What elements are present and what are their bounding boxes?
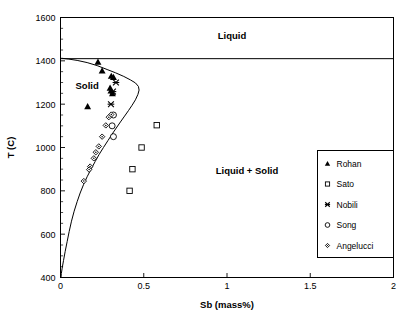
axis-titles: Sb (mass%)T (C) [5, 137, 254, 310]
chart-legend[interactable]: RohanSatoNobiliSongAngelucci [318, 151, 394, 258]
marker-open-circle [109, 123, 115, 129]
curve-solvus-curve [61, 58, 139, 277]
marker-filled-triangle [84, 103, 91, 109]
region-label-2: Liquid + Solid [216, 165, 279, 176]
legend-label-angelucci: Angelucci [337, 241, 374, 251]
marker-open-square [130, 166, 135, 171]
marker-open-square [139, 145, 144, 150]
legend-label-rohan: Rohan [337, 159, 362, 169]
region-label-0: Liquid [218, 30, 247, 41]
series-sato [127, 122, 160, 193]
marker-diamond-center [95, 152, 97, 154]
marker-diamond-center [105, 125, 107, 127]
marker-diamond-center [93, 158, 95, 160]
x-tick-label-1: 0.5 [137, 281, 150, 291]
region-label-1: Solid [76, 80, 99, 91]
marker-diamond-center [98, 146, 100, 148]
region-labels: LiquidSolidLiquid + Solid [76, 30, 279, 175]
marker-diamond-center [88, 169, 90, 171]
x-tick-label-3: 1.5 [304, 281, 317, 291]
y-tick-label-3: 1000 [35, 143, 55, 153]
y-axis-title: T (C) [5, 137, 16, 159]
y-tick-label-6: 1600 [35, 13, 55, 23]
y-tick-label-2: 800 [40, 186, 55, 196]
chart-canvas: 00.511.524006008001000120014001600 Liqui… [0, 0, 410, 327]
x-axis-title: Sb (mass%) [200, 299, 254, 310]
legend-label-song: Song [337, 220, 357, 230]
y-tick-label-1: 600 [40, 230, 55, 240]
marker-diamond-center [108, 116, 110, 118]
x-tick-label-2: 1 [224, 281, 229, 291]
marker-open-square [325, 182, 329, 186]
y-tick-label-5: 1400 [35, 56, 55, 66]
y-tick-label-0: 400 [40, 273, 55, 283]
x-tick-label-0: 0 [58, 281, 63, 291]
marker-filled-triangle [94, 59, 101, 65]
phase-diagram-figure: 00.511.524006008001000120014001600 Liqui… [0, 0, 410, 327]
marker-diamond-center [83, 180, 85, 182]
legend-label-nobili: Nobili [337, 200, 358, 210]
marker-open-square [127, 188, 132, 193]
data-points [81, 59, 159, 194]
marker-diamond-center [111, 114, 113, 116]
series-angelucci [81, 112, 114, 184]
x-tick-label-4: 2 [391, 281, 396, 291]
marker-open-circle [325, 223, 330, 228]
legend-label-sato: Sato [337, 179, 355, 189]
marker-diamond-center [327, 245, 328, 246]
marker-open-circle [110, 134, 116, 140]
marker-diamond-center [101, 136, 103, 138]
y-tick-label-4: 1200 [35, 100, 55, 110]
marker-open-square [154, 122, 159, 127]
